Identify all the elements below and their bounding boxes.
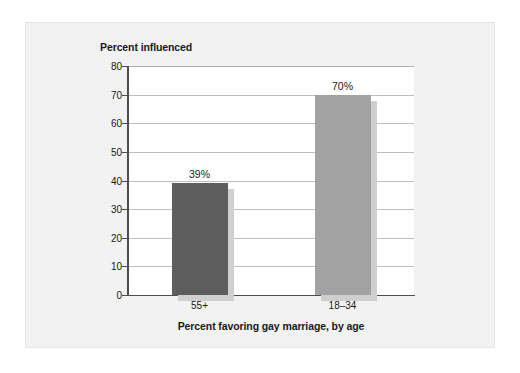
- bar-body: [315, 95, 371, 295]
- y-axis-tick-mark: [122, 209, 127, 210]
- y-axis-tick-mark: [122, 238, 127, 239]
- y-axis-tick-mark: [122, 95, 127, 96]
- y-axis-line: [127, 66, 129, 296]
- y-axis-tick-label: 0: [96, 290, 122, 301]
- gridline: [128, 95, 414, 96]
- bar-18-34: 70%: [315, 95, 371, 295]
- y-axis-tick-label: 30: [96, 204, 122, 215]
- y-axis-title: Percent influenced: [100, 41, 192, 53]
- y-axis-tick-labels: 01020304050607080: [96, 66, 122, 295]
- bar-body: [172, 183, 228, 295]
- y-axis-tick-label: 70: [96, 89, 122, 100]
- plot-area: 39%70%: [128, 66, 414, 295]
- gridline: [128, 66, 414, 67]
- y-axis-tick-mark: [122, 123, 127, 124]
- y-axis-tick-mark: [122, 181, 127, 182]
- y-axis-tick-label: 40: [96, 175, 122, 186]
- bar-value-label: 39%: [170, 168, 230, 180]
- y-axis-tick-mark: [122, 266, 127, 267]
- x-axis-title: Percent favoring gay marriage, by age: [128, 320, 414, 332]
- y-axis-tick-mark: [122, 295, 127, 296]
- y-axis-tick-label: 50: [96, 146, 122, 157]
- y-axis-tick-mark: [122, 152, 127, 153]
- y-axis-tick-label: 80: [96, 61, 122, 72]
- y-axis-tick-label: 60: [96, 118, 122, 129]
- y-axis-tick-label: 10: [96, 261, 122, 272]
- x-axis-tick-label: 55+: [155, 300, 245, 311]
- bar-55-: 39%: [172, 183, 228, 295]
- x-axis-tick-label: 18–34: [298, 300, 388, 311]
- y-axis-tick-mark: [122, 66, 127, 67]
- figure-root: Percent influenced 39%70% 01020304050607…: [0, 0, 520, 373]
- y-axis-tick-label: 20: [96, 232, 122, 243]
- bar-value-label: 70%: [313, 80, 373, 92]
